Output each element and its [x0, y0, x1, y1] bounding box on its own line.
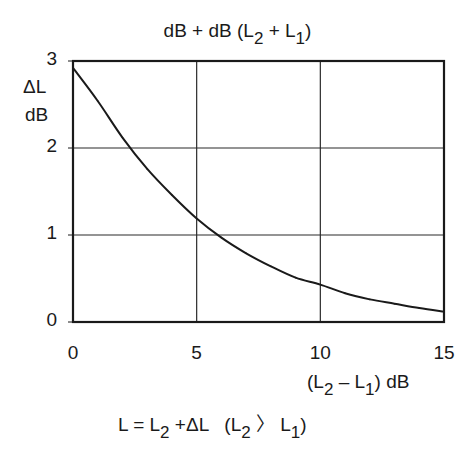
data-point: [344, 292, 346, 294]
plot-frame: [73, 61, 444, 322]
formula-subscript: 1: [291, 423, 300, 442]
y-tick-label: 3: [37, 48, 57, 70]
data-point: [270, 266, 272, 268]
x-tick-label: 0: [53, 342, 93, 364]
xlabel-text: – L: [333, 371, 365, 392]
x-axis-label: (L2 – L1) dB: [307, 371, 409, 393]
y-tick-label: 1: [37, 222, 57, 244]
xlabel-subscript: 2: [324, 380, 333, 399]
data-point: [245, 252, 247, 254]
data-point: [171, 194, 173, 196]
data-point: [146, 168, 148, 170]
formula-text: ): [300, 414, 306, 435]
data-point: [369, 299, 371, 301]
data-point: [295, 277, 297, 279]
xlabel-text: (L: [307, 371, 324, 392]
data-point: [443, 311, 445, 313]
data-point: [221, 237, 223, 239]
data-point: [394, 303, 396, 305]
x-tick-label: 10: [300, 342, 340, 364]
data-point: [196, 218, 198, 220]
xlabel-text: ) dB: [375, 371, 410, 392]
formula-text: +ΔL (L: [170, 414, 242, 435]
x-tick-label: 15: [424, 342, 464, 364]
series-line-delta-l: [73, 68, 444, 312]
data-point: [320, 284, 322, 286]
y-tick-label: 2: [37, 135, 57, 157]
x-tick-label: 5: [177, 342, 217, 364]
formula-subscript: 2: [160, 423, 169, 442]
plot-area: [0, 0, 475, 464]
data-point: [122, 137, 124, 139]
formula-text: L = L: [118, 414, 160, 435]
formula-subscript: 2: [241, 423, 250, 442]
data-point: [97, 100, 99, 102]
y-tick-label: 0: [37, 309, 57, 331]
formula-text: 〉 L: [251, 414, 291, 435]
formula-annotation: L = L2 +ΔL (L2 〉 L1): [118, 409, 307, 436]
data-point: [418, 307, 420, 309]
data-point: [72, 67, 74, 69]
xlabel-subscript: 1: [365, 380, 374, 399]
